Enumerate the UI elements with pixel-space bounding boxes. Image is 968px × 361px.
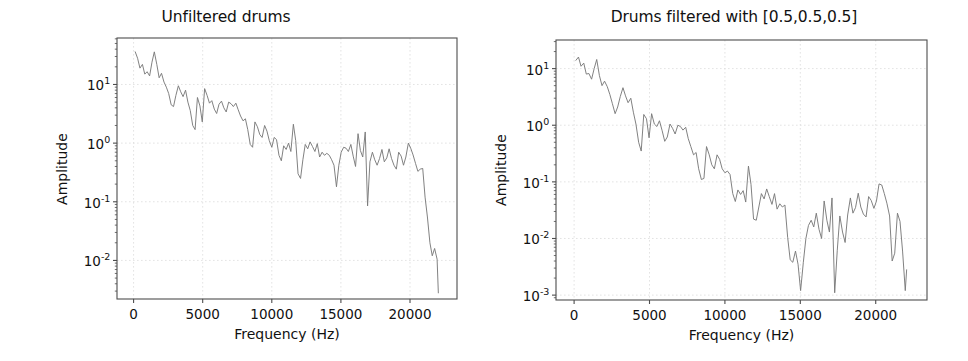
figure-container: Unfiltered drums 10110010-110-2050001000… [0,0,968,361]
ytick-label: 10-1 [84,193,110,211]
ytick-label: 10-3 [523,286,549,304]
xtick-label: 0 [129,306,138,322]
chart-panel-filtered: Drums filtered with [0.5,0.5,0.5] 101100… [484,0,968,361]
ytick-label: 100 [526,116,549,134]
spectrum-line [576,57,907,293]
xtick-label: 5000 [186,306,220,322]
yaxis-title: Amplitude [493,134,509,206]
ytick-label: 10-2 [523,230,549,248]
axes-frame [117,38,457,299]
xtick-label: 0 [570,307,579,323]
xtick-label: 20000 [854,307,897,323]
axes-frame [556,40,927,300]
xtick-label: 15000 [319,306,362,322]
xtick-label: 10000 [250,306,293,322]
xtick-label: 20000 [389,306,432,322]
xtick-label: 10000 [703,307,746,323]
ytick-label: 10-1 [523,173,549,191]
xtick-label: 15000 [779,307,822,323]
chart-panel-unfiltered: Unfiltered drums 10110010-110-2050001000… [0,0,484,361]
xaxis-title: Frequency (Hz) [234,326,340,342]
yaxis-title: Amplitude [54,133,70,205]
ytick-label: 100 [87,134,110,152]
spectrum-line [135,52,438,293]
ytick-label: 101 [87,76,110,94]
xtick-label: 5000 [632,307,666,323]
ytick-label: 10-2 [84,252,110,270]
xaxis-title: Frequency (Hz) [689,327,795,343]
ytick-label: 101 [526,60,549,78]
